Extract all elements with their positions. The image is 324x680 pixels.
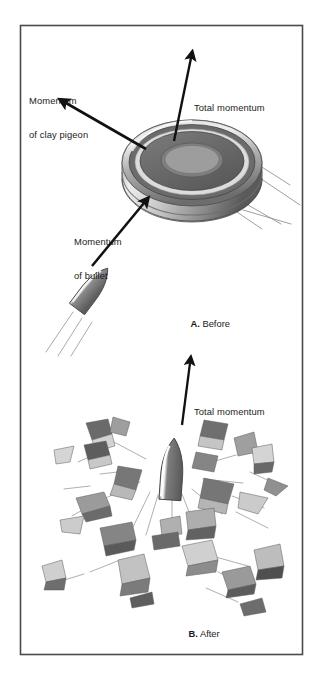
- label-momentum-of-clay-pigeon-line1: Momentum: [29, 95, 88, 106]
- label-total-momentum-after-line1: Total momentum: [194, 406, 265, 417]
- caption-panel-a-letter: A.: [190, 318, 199, 329]
- figure-root: Momentum of clay pigeon Total momentum M…: [0, 0, 324, 680]
- caption-panel-b: B. After: [178, 617, 220, 650]
- caption-panel-b-letter: B.: [188, 628, 197, 639]
- label-total-momentum-after: Total momentum: [194, 383, 265, 440]
- caption-panel-a-text: Before: [200, 318, 230, 329]
- label-total-momentum-before-line1: Total momentum: [194, 102, 265, 113]
- label-total-momentum-before: Total momentum: [194, 79, 265, 136]
- label-momentum-of-bullet-line1: Momentum: [74, 236, 122, 247]
- caption-panel-b-text: After: [198, 628, 220, 639]
- label-momentum-of-bullet: Momentum of bullet: [74, 213, 122, 304]
- caption-panel-a: A. Before: [180, 307, 230, 340]
- label-momentum-of-clay-pigeon: Momentum of clay pigeon: [29, 72, 88, 163]
- label-momentum-of-bullet-line2: of bullet: [74, 270, 122, 281]
- label-momentum-of-clay-pigeon-line2: of clay pigeon: [29, 129, 88, 140]
